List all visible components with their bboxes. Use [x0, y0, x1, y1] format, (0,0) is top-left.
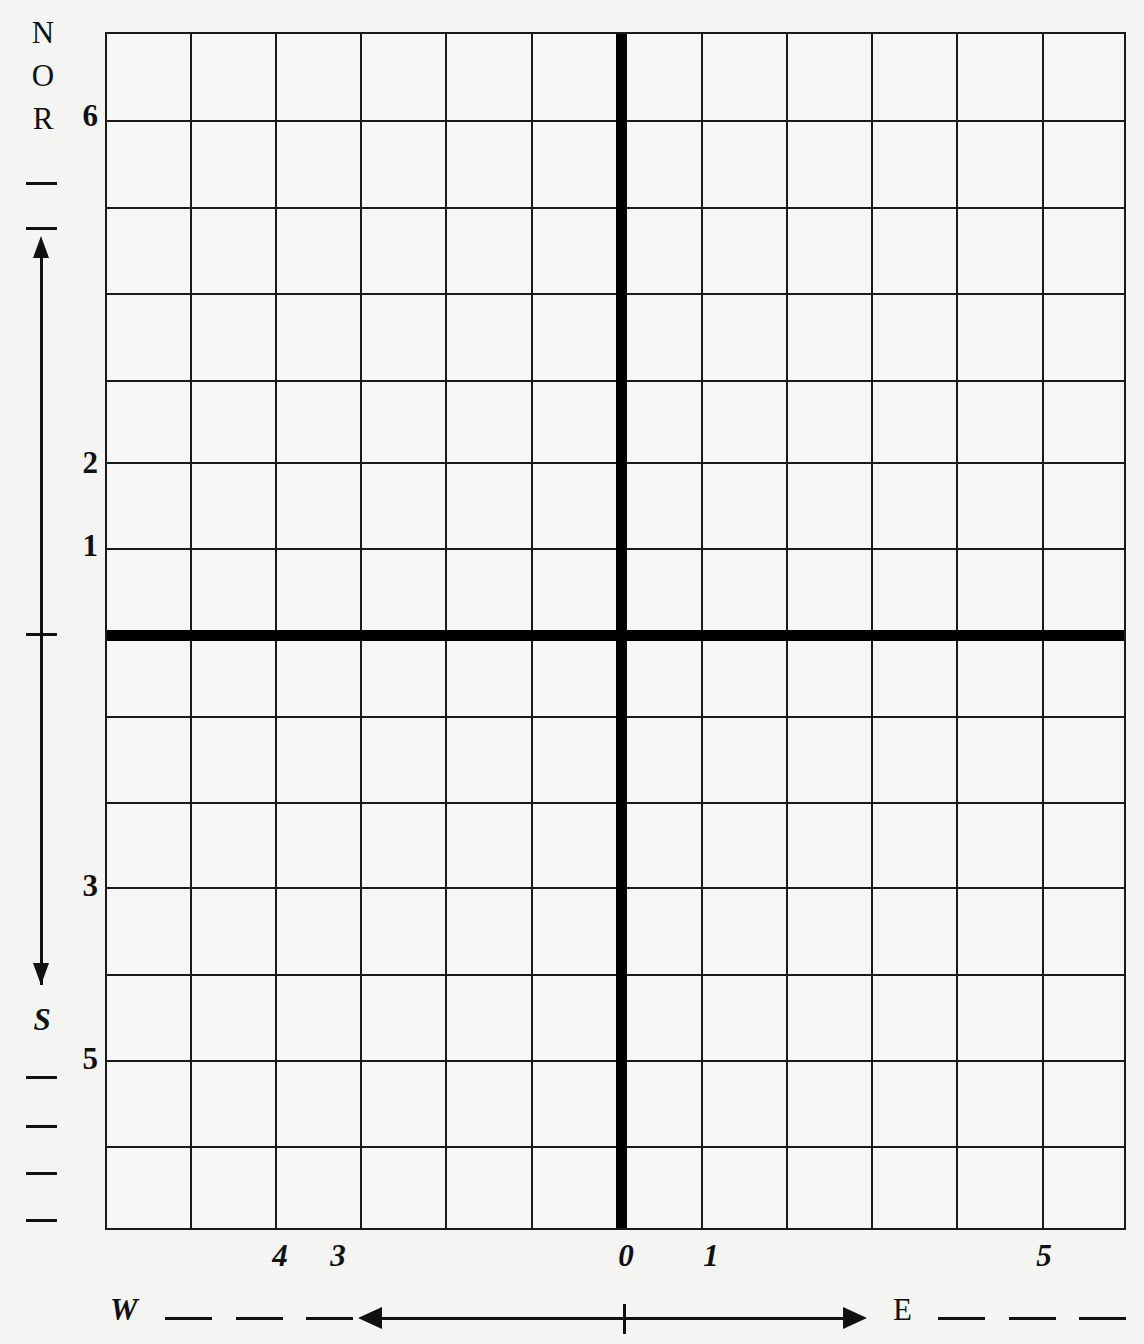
south-dash-3: [26, 1172, 57, 1175]
west-dash-3: [306, 1317, 353, 1320]
east-arrow-icon: [843, 1307, 867, 1329]
south-arrow-icon: [33, 963, 49, 985]
y-tick-label-2: 2: [56, 447, 98, 478]
south-dash-2: [26, 1125, 57, 1128]
west-dash-2: [236, 1317, 283, 1320]
north-south-axis-origin-tick: [26, 633, 57, 636]
x-tick-label-0: 0: [606, 1240, 646, 1271]
north-letter-n: N: [22, 12, 64, 55]
south-dash-4: [26, 1219, 57, 1222]
west-east-axis-origin-tick: [623, 1304, 626, 1334]
east-dash-1: [938, 1317, 985, 1320]
south-label: S: [24, 1004, 60, 1035]
x-tick-label-3: 3: [318, 1240, 358, 1271]
y-tick-label-1: 1: [56, 530, 98, 561]
y-tick-label-5: 5: [56, 1043, 98, 1074]
south-dash-1: [26, 1076, 57, 1079]
north-south-axis-line: [40, 245, 43, 985]
y-axis-thick-line: [616, 34, 627, 1228]
west-label: W: [110, 1294, 138, 1325]
x-tick-label-4: 4: [260, 1240, 300, 1271]
x-tick-label-1: 1: [691, 1240, 731, 1271]
north-dash-2: [26, 227, 57, 230]
coordinate-grid-page: N O R S 6 2 1 3 5: [0, 0, 1144, 1344]
west-arrow-icon: [358, 1307, 382, 1329]
east-label: E: [893, 1294, 912, 1325]
west-east-axis: W E: [0, 1294, 1144, 1340]
y-tick-label-6: 6: [56, 100, 98, 131]
west-dash-1: [165, 1317, 212, 1320]
east-dash-2: [1009, 1317, 1056, 1320]
coordinate-grid[interactable]: [105, 32, 1126, 1230]
west-east-axis-line: [381, 1317, 843, 1320]
east-dash-3: [1079, 1317, 1126, 1320]
north-dash-1: [26, 182, 57, 185]
y-tick-label-3: 3: [56, 870, 98, 901]
x-tick-label-5: 5: [1024, 1240, 1064, 1271]
north-letter-o: O: [22, 55, 64, 98]
